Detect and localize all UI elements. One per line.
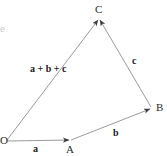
vector-diagram-canvas [0, 0, 167, 156]
point-label-B: B [156, 102, 163, 113]
vector-label-b: b [113, 128, 119, 138]
edge-artifact-mark: e [0, 23, 5, 34]
point-label-C: C [95, 4, 102, 15]
vector-a-line [7, 140, 69, 141]
point-label-A: A [66, 144, 74, 155]
vector-diagram-figure: e O A B C a b c a + b + c [0, 0, 167, 156]
vector-label-a: a [33, 144, 38, 154]
vector-label-c: c [132, 56, 136, 66]
vector-label-resultant: a + b + c [30, 64, 66, 74]
vector-resultant-line [7, 20, 98, 140]
vector-b-line [71, 109, 150, 140]
point-label-O: O [0, 135, 8, 146]
vector-c-line [100, 20, 151, 107]
